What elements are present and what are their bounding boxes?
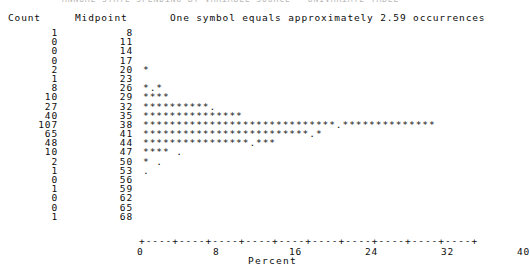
- histogram-row: 1047|**** .: [0, 147, 524, 156]
- x-tick-label: 8: [213, 246, 220, 258]
- row-count: 10: [0, 147, 58, 156]
- cut-off-title-strip: ANNUAL STATE SPENDING BY VARIABLE SOURCE…: [62, 0, 462, 6]
- histogram-row: 826|*.*: [0, 83, 524, 92]
- x-axis-tick-labels: 0816243240: [139, 246, 529, 258]
- row-count: 0: [0, 56, 58, 65]
- x-tick-label: 24: [365, 246, 378, 258]
- y-axis-bar-glyph: |: [139, 211, 141, 222]
- row-count: 0: [0, 46, 58, 55]
- column-header-midpoint: Midpoint: [75, 11, 128, 25]
- row-count: 1: [0, 166, 58, 175]
- histogram-row: 017|: [0, 56, 524, 65]
- row-midpoint: 68: [58, 212, 133, 221]
- histogram-row: 168|: [0, 212, 524, 221]
- histogram-row: 1029|****: [0, 92, 524, 101]
- histogram-row: 159|: [0, 184, 524, 193]
- column-header-count: Count: [8, 11, 41, 25]
- row-count: 0: [0, 175, 58, 184]
- row-count: 1: [0, 184, 58, 193]
- histogram-row: 153|.: [0, 166, 524, 175]
- table-header: Count Midpoint One symbol equals approxi…: [0, 11, 524, 25]
- histogram-row: 065|: [0, 203, 524, 212]
- row-count: 1: [0, 212, 58, 221]
- row-count: 0: [0, 203, 58, 212]
- row-count: 2: [0, 65, 58, 74]
- histogram-row: 011|: [0, 37, 524, 46]
- histogram-row: 062|: [0, 193, 524, 202]
- x-tick-label: 0: [137, 246, 144, 258]
- row-symbol-bar: *: [143, 65, 150, 74]
- row-count: 0: [0, 37, 58, 46]
- x-tick-label: 40: [517, 246, 530, 258]
- x-axis-tick-line: +----+----+----+----+----+----+----+----…: [139, 236, 478, 245]
- histogram-row: 220|*: [0, 65, 524, 74]
- histogram-row: 18|: [0, 28, 524, 37]
- row-count: 1: [0, 74, 58, 83]
- histogram-row: 4844|****************.***: [0, 138, 524, 147]
- cut-off-title-text: ANNUAL STATE SPENDING BY VARIABLE SOURCE…: [62, 0, 462, 4]
- histogram-row: 014|: [0, 46, 524, 55]
- row-count: 2: [0, 157, 58, 166]
- histogram-body: 18|011|014|017|220|*123|826|*.*1029|****…: [0, 28, 524, 221]
- row-count: 0: [0, 193, 58, 202]
- histogram-row: 056|: [0, 175, 524, 184]
- symbol-scale-legend: One symbol equals approximately 2.59 occ…: [170, 11, 485, 25]
- x-tick-label: 32: [441, 246, 454, 258]
- histogram-row: 123|: [0, 74, 524, 83]
- histogram-row: 2732|**********.: [0, 102, 524, 111]
- histogram-row: 250|* .: [0, 157, 524, 166]
- row-count: 1: [0, 28, 58, 37]
- row-symbol-bar: .: [143, 166, 150, 175]
- x-axis-label: Percent: [248, 255, 297, 267]
